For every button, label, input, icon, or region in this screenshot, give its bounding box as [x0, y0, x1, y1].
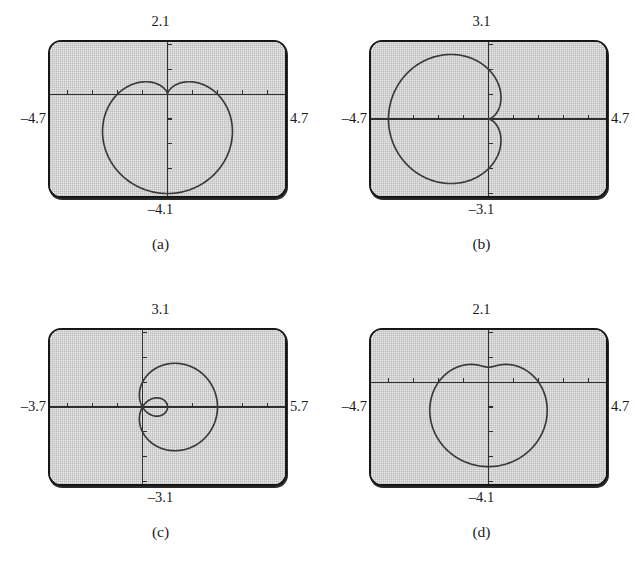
panel-d-left-label: –4.7 [327, 399, 367, 414]
calculator-screen-c [48, 328, 287, 486]
panel-b-right-label: 4.7 [611, 111, 642, 126]
calculator-screen-a [48, 40, 287, 198]
panel-b: 3.1 –4.7 4.7 –3.1 (b) [321, 0, 642, 288]
panel-d-right-label: 4.7 [611, 399, 642, 414]
polar-graphs-figure: 2.1 –4.7 4.7 –4.1 (a) 3.1 –4.7 4.7 –3.1 … [0, 0, 642, 576]
panel-a-bottom-label: –4.1 [0, 202, 321, 217]
panel-b-caption: (b) [321, 236, 642, 252]
panel-d: 2.1 –4.7 4.7 –4.1 (d) [321, 288, 642, 576]
panel-c: 3.1 –3.7 5.7 –3.1 (c) [0, 288, 321, 576]
polar-plot-b [371, 42, 606, 196]
polar-plot-a [50, 42, 285, 196]
calculator-screen-d [369, 328, 608, 486]
panel-b-top-label: 3.1 [321, 14, 642, 29]
panel-b-bottom-label: –3.1 [321, 202, 642, 217]
panel-c-left-label: –3.7 [6, 399, 46, 414]
panel-c-bottom-label: –3.1 [0, 490, 321, 505]
panel-a-caption: (a) [0, 236, 321, 252]
panel-a-top-label: 2.1 [0, 14, 321, 29]
panel-b-left-label: –4.7 [327, 111, 367, 126]
panel-a: 2.1 –4.7 4.7 –4.1 (a) [0, 0, 321, 288]
polar-plot-c [50, 330, 285, 484]
panel-c-top-label: 3.1 [0, 302, 321, 317]
panel-a-left-label: –4.7 [6, 111, 46, 126]
polar-plot-d [371, 330, 606, 484]
calculator-screen-b [369, 40, 608, 198]
panel-d-bottom-label: –4.1 [321, 490, 642, 505]
panel-d-top-label: 2.1 [321, 302, 642, 317]
panel-c-caption: (c) [0, 524, 321, 540]
panel-d-caption: (d) [321, 524, 642, 540]
